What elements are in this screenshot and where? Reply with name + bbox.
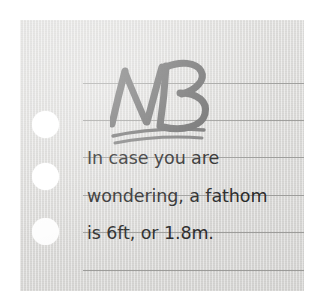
rule-line-1 <box>83 83 304 84</box>
note-body-line-3: is 6ft, or 1.8m. <box>87 215 302 253</box>
nb-handwritten-mark <box>110 50 220 150</box>
note-canvas: In case you are wondering, a fathom is 6… <box>0 0 326 308</box>
rule-line-2 <box>83 120 304 121</box>
punch-hole-3 <box>32 218 59 245</box>
punch-hole-2 <box>32 163 59 190</box>
punch-hole-1 <box>32 111 59 138</box>
paper-sheet: In case you are wondering, a fathom is 6… <box>20 20 304 291</box>
rule-line-6 <box>83 270 304 271</box>
note-body-line-1: In case you are <box>87 140 302 178</box>
note-body-line-2: wondering, a fathom <box>87 178 302 216</box>
note-body-text: In case you are wondering, a fathom is 6… <box>87 140 302 253</box>
